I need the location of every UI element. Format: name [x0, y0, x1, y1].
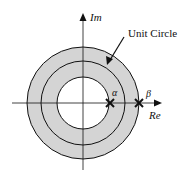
pole-beta-label: β — [145, 88, 151, 99]
imaginary-axis-arrowhead — [80, 13, 87, 21]
complex-plane-diagram: Im Re Unit Circle α β — [0, 0, 180, 177]
pole-alpha-label: α — [112, 87, 118, 98]
imaginary-axis-label: Im — [89, 11, 102, 23]
real-axis-label: Re — [148, 109, 161, 121]
annotation-arrow-shaft — [110, 37, 124, 60]
unit-circle-annotation: Unit Circle — [128, 27, 177, 39]
real-axis-arrowhead — [154, 100, 162, 107]
